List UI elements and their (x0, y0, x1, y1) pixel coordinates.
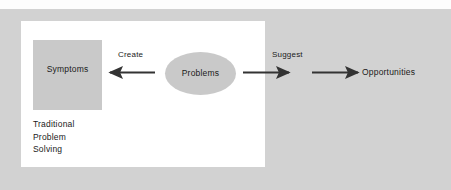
caption-line-1: Traditional (33, 118, 75, 131)
caption-line-3: Solving (33, 143, 75, 156)
symptoms-node-label: Symptoms (33, 64, 102, 75)
suggest-edge-label: Suggest (272, 50, 303, 60)
top-strip (0, 0, 451, 9)
caption-line-2: Problem (33, 131, 75, 144)
figure-top-title (0, 0, 451, 7)
problems-node-label: Problems (165, 68, 236, 79)
traditional-problem-solving-caption: Traditional Problem Solving (33, 118, 75, 156)
symptoms-node-box (33, 40, 102, 110)
opportunities-node-label: Opportunities (362, 67, 415, 78)
diagram-canvas: Symptoms Problems Create Suggest Opportu… (0, 0, 451, 190)
create-edge-label: Create (118, 50, 143, 60)
